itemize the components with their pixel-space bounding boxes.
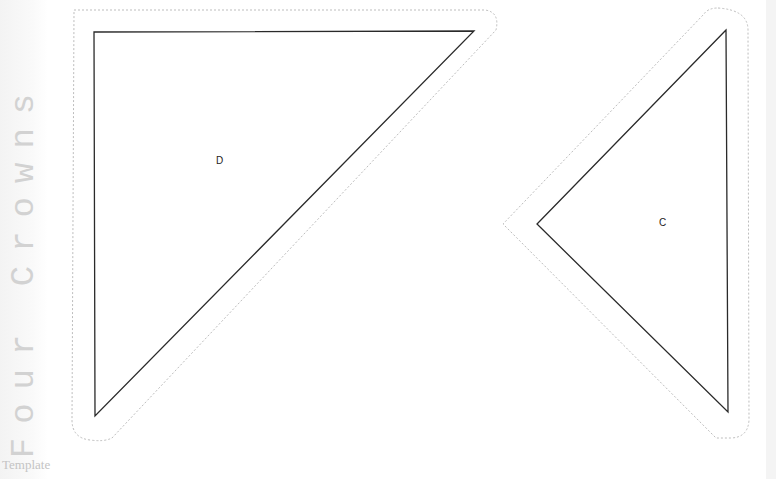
piece-d-seam-outline [72, 10, 497, 441]
template-pieces [0, 0, 776, 479]
piece-d-label: D [216, 155, 223, 166]
piece-c-label: C [659, 217, 666, 228]
piece-c-seam-outline [503, 8, 749, 438]
piece-d-outline [94, 31, 474, 416]
